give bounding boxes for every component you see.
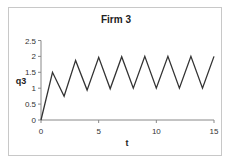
- y-tick-label: 1: [32, 84, 37, 93]
- x-tick-label: 0: [39, 127, 44, 136]
- x-tick-label: 15: [210, 127, 219, 136]
- line-chart: Firm 3 00.511.522.5 051015 q3 t: [0, 0, 231, 163]
- y-tick-label: 2.5: [25, 37, 37, 46]
- y-axis-label: q3: [16, 76, 27, 86]
- x-axis: 051015: [39, 120, 219, 136]
- x-axis-label: t: [126, 138, 129, 148]
- x-tick-label: 5: [96, 127, 101, 136]
- y-tick-label: 0.5: [25, 100, 37, 109]
- y-tick-label: 2: [32, 52, 37, 61]
- y-tick-label: 0: [32, 116, 37, 125]
- y-axis: 00.511.522.5: [25, 37, 41, 126]
- x-tick-label: 10: [152, 127, 161, 136]
- series-line-q3: [41, 56, 214, 120]
- y-tick-label: 1.5: [25, 68, 37, 77]
- chart-title: Firm 3: [101, 14, 131, 25]
